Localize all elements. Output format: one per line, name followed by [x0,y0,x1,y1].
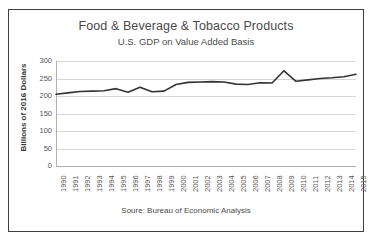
chart-card: Food & Beverage & Tobacco Products U.S. … [8,9,364,232]
plot-area: 050100150200250300 199019911992199319941… [9,10,365,233]
data-series-line [9,10,365,233]
source-note: Soure: Bureau of Economic Analysis [9,206,363,215]
